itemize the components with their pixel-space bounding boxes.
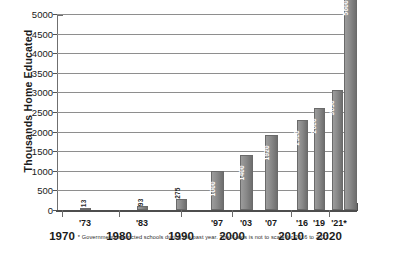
x-axis-line [56, 210, 357, 212]
x-minor-label: '73 [79, 218, 91, 228]
y-tick-label: 1000 [9, 165, 53, 176]
bar-value-label: 275 [172, 181, 190, 199]
y-tick-label: 0 [9, 205, 53, 216]
y-tick-mark [53, 171, 57, 172]
home-education-bar-chart: Thousands Home Educated 0500100015002000… [0, 0, 408, 266]
x-minor-label: '21* [331, 218, 347, 228]
x-minor-label: '83 [136, 218, 148, 228]
bar-value-label: 1920 [260, 138, 282, 160]
x-minor-label: '16 [296, 218, 308, 228]
y-tick-mark [53, 53, 57, 54]
gridline [57, 92, 357, 93]
y-tick-mark [53, 34, 57, 35]
y-tick-label: 500 [9, 185, 53, 196]
plot-area: 0500100015002000250030003500400045005000… [57, 14, 357, 210]
x-minor-label: '03 [240, 218, 252, 228]
y-tick-mark [53, 92, 57, 93]
bar: 2600 [314, 108, 325, 210]
y-tick-label: 5000 [9, 9, 53, 20]
gridline [57, 171, 357, 172]
gridline [57, 73, 357, 74]
bar: 3050 [332, 90, 343, 210]
bar: 1400 [240, 155, 253, 210]
bar: 1000 [211, 171, 224, 210]
x-tick-mark [232, 210, 233, 217]
y-tick-label: 1500 [9, 146, 53, 157]
y-tick-mark [53, 14, 57, 15]
bar-value-label: 1000 [206, 174, 228, 196]
bar-value-label: 1400 [235, 158, 257, 180]
x-tick-mark [62, 210, 63, 217]
x-minor-label: '19 [313, 218, 325, 228]
gridline [57, 151, 357, 152]
gridline [57, 14, 357, 15]
bar-value-label: 93 [135, 193, 148, 206]
y-tick-mark [53, 112, 57, 113]
x-tick-mark [291, 210, 292, 217]
bar: 275 [176, 199, 187, 210]
x-minor-label: '07 [265, 218, 277, 228]
y-tick-mark [53, 151, 57, 152]
x-minor-label: '97 [211, 218, 223, 228]
y-tick-label: 3000 [9, 87, 53, 98]
x-tick-mark [329, 210, 330, 217]
bar: 2300 [297, 120, 308, 210]
x-tick-mark [181, 210, 182, 217]
gridline [57, 53, 357, 54]
bar: 93 [137, 206, 148, 210]
bar: 5600 [344, 0, 357, 210]
bar: 1920 [265, 135, 278, 210]
x-tick-mark [119, 210, 120, 217]
y-tick-mark [53, 210, 57, 211]
bar: 13 [80, 208, 91, 211]
y-tick-label: 3500 [9, 67, 53, 78]
y-tick-mark [53, 190, 57, 191]
gridline [57, 34, 357, 35]
y-tick-label: 2000 [9, 126, 53, 137]
bar-value-label: 5600 [339, 0, 361, 16]
chart-footnote: * Governments restricted schools during … [0, 234, 408, 240]
y-tick-mark [53, 132, 57, 133]
y-tick-label: 4500 [9, 28, 53, 39]
y-tick-mark [53, 73, 57, 74]
y-tick-label: 2500 [9, 107, 53, 118]
y-tick-label: 4000 [9, 48, 53, 59]
y-axis-title: Thousands Home Educated [22, 21, 34, 181]
bar-value-label: 13 [78, 194, 91, 207]
